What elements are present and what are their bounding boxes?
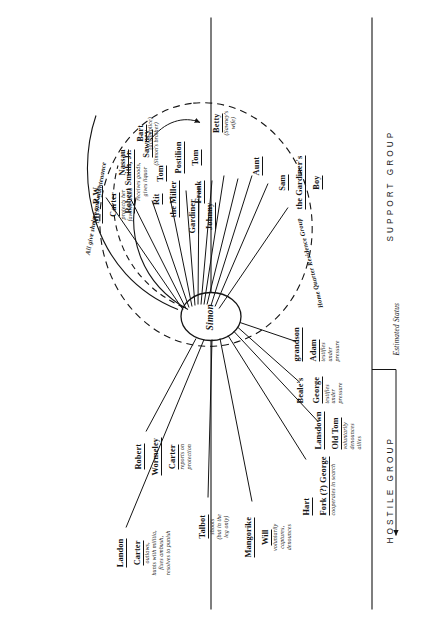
node-name: Old Tom <box>332 417 342 449</box>
node-name: the Gardiner's <box>296 155 306 209</box>
node-name: grandson <box>293 327 303 361</box>
node-desc: voluntarily denounces allies <box>342 411 362 449</box>
node-label-aunt: Aunt <box>246 156 263 175</box>
node-desc: voluntarily captures, denounces <box>272 517 292 557</box>
node-name: Landon <box>117 538 127 567</box>
node-label-lansdown-old-tom: Lansdown Old Tom voluntarily denounces a… <box>308 411 363 449</box>
node-label-hart-fork-george: Hart Fork (?) George cooperates in searc… <box>296 456 337 515</box>
node-label-tom: Tom <box>150 165 167 181</box>
node-name: Tom <box>192 149 202 165</box>
support-group-banner: SUPPORT GROUP <box>386 129 395 241</box>
node-name: Fork (?) George <box>320 456 330 515</box>
node-label-robert-wormeley-carter: Robert Wormeley Carter reports on protec… <box>128 437 193 475</box>
node-name: Nassau <box>119 149 129 175</box>
node-name: Rit <box>153 193 163 204</box>
node-name: Sam <box>279 174 289 190</box>
node-name: Boy <box>313 175 323 189</box>
node-name: Beale's <box>297 377 306 403</box>
node-label-nassau: Nassau <box>112 149 129 175</box>
node-label-rit-the-miller: Rit the Miller <box>146 180 180 217</box>
node-label-sam-gardiners-boy: Sam the Gardiner's Boy <box>272 155 323 209</box>
node-label-grandson-adam: grandson Adam testifies under pressure <box>286 327 341 361</box>
node-name: Aunt <box>253 156 263 175</box>
node-label-bart: Bart (accomplice) <box>130 117 154 149</box>
node-name: Wormeley <box>152 437 162 475</box>
node-name: Robert <box>135 443 145 469</box>
node-desc: (accomplice) <box>147 117 154 149</box>
node-name: Talbot <box>199 514 209 538</box>
node-name: Hart <box>303 497 313 515</box>
node-name: George <box>313 376 323 403</box>
node-label-talbot: Talbot shoots (but in the leg only) <box>192 513 230 539</box>
hostile-group-banner: HOSTILE GROUP <box>386 435 395 543</box>
node-desc: reports on protection <box>179 437 193 475</box>
sociogram-canvas: Simon Home Quarter Residence Group All g… <box>0 0 422 627</box>
node-name: Lansdown <box>315 411 325 449</box>
node-label-betty: Betty (Sawney's wife) <box>206 110 237 135</box>
node-label-gardiner-johnny: Gardiner Johnny <box>182 199 216 233</box>
node-label-frank: Frank <box>188 180 205 203</box>
node-name: Adam <box>310 339 320 361</box>
node-name: Carter <box>169 444 179 469</box>
node-desc: outlaws, hunts with militia, fixes ambus… <box>144 530 171 575</box>
node-name: Frank <box>195 180 205 203</box>
node-desc: shoots (but in the leg only) <box>209 513 229 539</box>
node-name: Tom <box>157 165 167 181</box>
simon-node-label: Simon <box>204 303 215 330</box>
node-name: Mangorike <box>245 517 255 557</box>
node-name: Carter <box>134 540 144 565</box>
estimated-status-label: Estimated Status <box>392 302 401 355</box>
node-desc: testifies under pressure <box>320 327 340 361</box>
node-name: Will <box>262 529 272 545</box>
node-name: the Miller <box>170 180 180 217</box>
node-label-beales-george: Beale's George testifies under pressure <box>290 376 344 403</box>
node-desc: cooperates in search <box>330 456 337 515</box>
node-label-mangorike-will: Mangorike Will voluntarily captures, den… <box>238 517 293 557</box>
node-label-postilion-tom: Postilion Tom <box>168 141 202 173</box>
node-name: Postilion <box>175 141 185 173</box>
node-name: Mrs. R.W. <box>93 185 103 223</box>
node-desc: (Sawney's wife) <box>223 110 237 135</box>
node-name: Johnny <box>206 202 216 229</box>
diagram-stage: Simon Home Quarter Residence Group All g… <box>0 0 422 627</box>
node-desc: (Simon's brother) <box>153 122 160 165</box>
node-name: Betty <box>213 113 223 133</box>
node-desc: testifies under pressure <box>324 376 344 403</box>
node-name: Gardiner <box>189 199 199 233</box>
node-name: Bart <box>137 124 147 141</box>
node-label-landon-carter: Landon Carter outlaws, hunts with militi… <box>110 530 171 575</box>
